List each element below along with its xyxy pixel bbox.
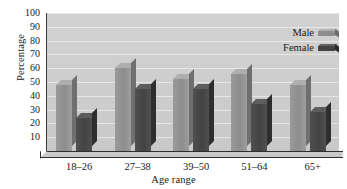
y-axis-tick-labels: 102030405060708090100: [18, 7, 40, 158]
y-axis-tick-label: 90: [30, 22, 40, 32]
bar-side-face: [92, 108, 97, 146]
chart-floor: [40, 151, 343, 158]
bar-front-face: [251, 104, 267, 151]
bar-front-face: [193, 89, 209, 151]
y-axis-tick-label: 10: [30, 132, 40, 142]
y-axis-tick-label: 80: [30, 36, 40, 46]
bar-chart: Percentage 102030405060708090100 18–2627…: [0, 0, 347, 189]
x-axis-tick-labels: 18–2627–3839–5051–6465+: [47, 161, 339, 175]
bar-male: [231, 74, 247, 151]
chart-legend: Male Female: [243, 25, 339, 55]
bar-front-face: [173, 79, 189, 151]
legend-label-male: Male: [292, 27, 314, 38]
x-axis-tick-label: 18–26: [66, 161, 92, 173]
legend-swatch-female-icon: [318, 44, 339, 51]
bar-front-face: [135, 89, 151, 151]
bar-front-face: [231, 74, 247, 151]
x-axis-tick-label: 27–38: [124, 161, 150, 173]
y-axis-tick-label: 20: [30, 118, 40, 128]
bar-front-face: [115, 68, 131, 151]
bar-male: [56, 85, 72, 151]
x-axis-tick-label: 51–64: [241, 161, 267, 173]
bar-side-face: [209, 79, 214, 146]
bar-side-face: [151, 79, 156, 146]
x-axis-tick-label: 65+: [305, 161, 321, 173]
y-axis-tick-label: 40: [30, 91, 40, 101]
bar-female: [310, 112, 326, 151]
floor-top-edge: [47, 151, 343, 152]
y-axis-tick-label: 70: [30, 49, 40, 59]
bar-female: [135, 89, 151, 151]
floor-front-edge: [40, 157, 343, 158]
bar-male: [115, 68, 131, 151]
bar-female: [76, 118, 92, 151]
legend-swatch-male-icon: [318, 29, 339, 36]
bar-female: [193, 89, 209, 151]
legend-item-female: Female: [243, 40, 339, 55]
bar-front-face: [76, 118, 92, 151]
bar-front-face: [56, 85, 72, 151]
y-axis-tick-label: 100: [25, 8, 40, 18]
bar-side-face: [267, 94, 272, 146]
bar-female: [251, 104, 267, 151]
y-axis-tick-label: 50: [30, 77, 40, 87]
legend-label-female: Female: [283, 42, 314, 53]
bar-front-face: [310, 112, 326, 151]
x-axis-title: Age range: [0, 174, 347, 185]
x-axis-tick-label: 39–50: [183, 161, 209, 173]
y-axis-tick-label: 60: [30, 63, 40, 73]
bar-front-face: [290, 85, 306, 151]
legend-item-male: Male: [243, 25, 339, 40]
bar-male: [290, 85, 306, 151]
bar-side-face: [326, 102, 331, 146]
y-axis-tick-label: 30: [30, 105, 40, 115]
bar-male: [173, 79, 189, 151]
